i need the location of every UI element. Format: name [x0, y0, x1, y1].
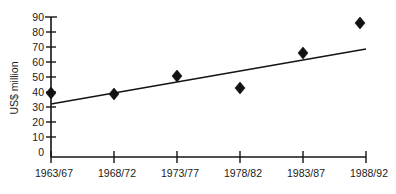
- y-tick-label-0: 0: [38, 146, 44, 158]
- y-tick-label-50: 50: [32, 71, 44, 83]
- scatter-plot: US$ million 90 80 70 60 50 40 30 20 10 0: [0, 0, 396, 194]
- y-tick-label-60: 60: [32, 56, 44, 68]
- data-point-1988-92: [355, 17, 365, 29]
- y-tick-label-90: 90: [32, 11, 44, 23]
- x-tick-label-1968-72: 1968/72: [98, 167, 136, 179]
- y-tick-label-30: 30: [32, 101, 44, 113]
- data-point-1963-67: [46, 87, 56, 99]
- x-tick-label-1973-77: 1973/77: [161, 167, 199, 179]
- x-tick-label-1963-67: 1963/67: [35, 167, 73, 179]
- y-axis-title: US$ million: [8, 61, 20, 114]
- x-tick-label-1988-92: 1988/92: [350, 167, 388, 179]
- x-tick-label-1978-82: 1978/82: [224, 167, 262, 179]
- chart-container: US$ million 90 80 70 60 50 40 30 20 10 0: [0, 0, 396, 194]
- y-tick-label-80: 80: [32, 26, 44, 38]
- data-point-1973-77: [172, 70, 182, 82]
- data-point-1983-87: [298, 47, 308, 59]
- y-tick-label-70: 70: [32, 41, 44, 53]
- data-point-1968-72: [109, 88, 119, 100]
- data-point-1978-82: [235, 82, 245, 94]
- trend-line: [51, 49, 366, 104]
- y-tick-label-10: 10: [32, 131, 44, 143]
- y-tick-label-40: 40: [32, 86, 44, 98]
- y-tick-label-20: 20: [32, 116, 44, 128]
- x-tick-label-1983-87: 1983/87: [287, 167, 325, 179]
